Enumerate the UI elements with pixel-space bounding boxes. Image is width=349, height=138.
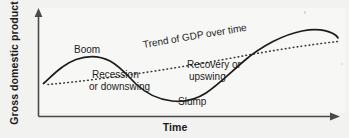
x-axis xyxy=(39,112,341,120)
y-axis-title: Gross domestic product xyxy=(8,0,20,130)
label-recovery-line2: upswing xyxy=(189,71,241,83)
business-cycle-figure: Gross domestic product Time Boom Trend o… xyxy=(0,0,349,138)
y-axis xyxy=(35,8,43,117)
label-recession-line1: Recession xyxy=(92,69,139,80)
label-recession-line2: or downswing xyxy=(89,81,150,93)
label-recovery-line1: Recovery or xyxy=(187,59,241,70)
label-boom: Boom xyxy=(74,44,100,56)
x-axis-title: Time xyxy=(145,121,205,133)
label-slump: Slump xyxy=(178,96,206,108)
label-recession: Recession or downswing xyxy=(92,69,150,92)
plot-canvas xyxy=(0,0,349,138)
label-recovery: Recovery or upswing xyxy=(187,59,241,82)
